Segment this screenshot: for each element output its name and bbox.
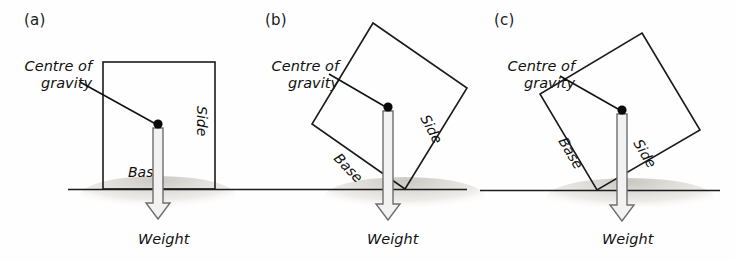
panel-c: (c) Centre of gravity Ba bbox=[485, 0, 735, 261]
panel-c-base-label: Base bbox=[555, 134, 586, 171]
panel-c-graphic: Base Side bbox=[485, 0, 735, 261]
panel-b-base-label: Base bbox=[331, 150, 366, 186]
panel-b-side-label: Side bbox=[417, 112, 445, 146]
panel-a-leader-line bbox=[80, 82, 154, 123]
panel-b: (b) Centre of gravity Ba bbox=[245, 0, 485, 261]
panel-c-weight-arrow bbox=[610, 114, 634, 221]
panel-b-graphic: Base Side bbox=[245, 0, 485, 261]
panel-b-weight-arrow bbox=[376, 111, 400, 220]
panel-b-leader-line bbox=[329, 74, 384, 106]
panel-b-ground-shadow bbox=[325, 177, 485, 217]
centre-of-gravity-figure: (a) Centre of gravity Ba bbox=[0, 0, 735, 261]
panel-a-side-label: Side bbox=[194, 106, 210, 136]
panel-c-leader-line bbox=[560, 76, 618, 109]
panel-c-centre-of-gravity-dot bbox=[617, 105, 626, 114]
panel-b-weight-label: Weight bbox=[367, 231, 418, 247]
panel-a-weight-label: Weight bbox=[138, 231, 189, 247]
panel-a-centre-of-gravity-dot bbox=[153, 119, 162, 128]
panel-a-graphic: Base Side bbox=[0, 0, 245, 261]
panel-c-ground-shadow bbox=[546, 178, 714, 218]
panel-c-weight-label: Weight bbox=[602, 231, 653, 247]
panel-a: (a) Centre of gravity Ba bbox=[0, 0, 245, 261]
panel-b-centre-of-gravity-dot bbox=[383, 102, 392, 111]
panel-c-side-label: Side bbox=[630, 136, 659, 170]
